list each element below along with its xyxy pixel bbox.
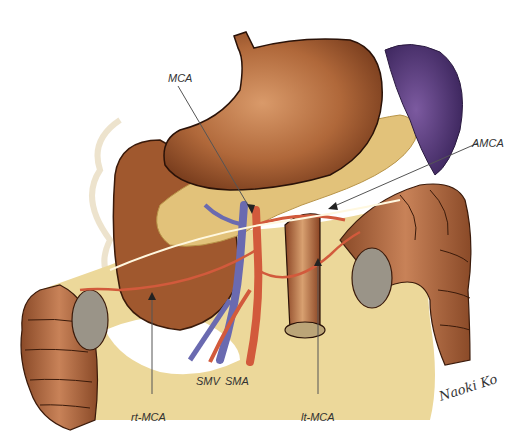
jejunum-cut-end — [285, 322, 325, 338]
ascending-colon — [21, 285, 108, 430]
anatomical-figure: MCA AMCA SMV SMA rt-MCA lt-MCA Naoki Ko — [0, 0, 524, 442]
right-colon-cut-end — [72, 290, 108, 350]
anatomy-illustration — [0, 0, 524, 442]
label-smv: SMV — [196, 375, 220, 387]
label-rt-mca: rt-MCA — [131, 411, 166, 423]
label-lt-mca: lt-MCA — [301, 411, 335, 423]
label-mca: MCA — [168, 72, 192, 84]
label-amca: AMCA — [472, 137, 504, 149]
left-colon-cut-end — [352, 248, 392, 308]
label-sma: SMA — [225, 375, 249, 387]
